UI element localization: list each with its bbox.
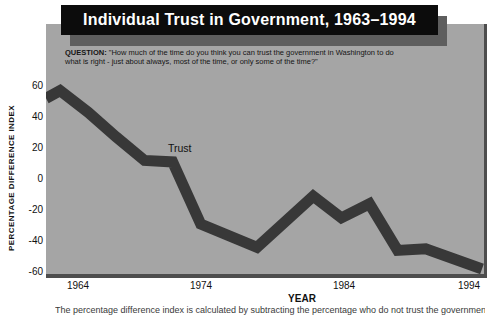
question-body: "How much of the time do you think you c… (65, 48, 394, 66)
chart-title: Individual Trust in Government, 1963–199… (83, 11, 416, 29)
x-tick-label: 1974 (190, 281, 212, 291)
x-tick-label: 1964 (67, 281, 89, 291)
question-text: QUESTION: "How much of the time do you t… (65, 49, 401, 66)
title-bar: Individual Trust in Government, 1963–199… (61, 5, 438, 35)
y-tick-label: 0 (19, 174, 43, 184)
trust-line (46, 91, 482, 269)
y-axis-title: PERCENTAGE DIFFERENCE INDEX (7, 105, 16, 251)
y-tick-label: 60 (19, 81, 43, 91)
y-tick-label: 40 (19, 112, 43, 122)
x-tick-label: 1984 (333, 281, 355, 291)
caption-clipped: The percentage difference index is calcu… (55, 305, 485, 315)
y-tick-label: -60 (19, 267, 43, 277)
y-tick-label: -40 (19, 236, 43, 246)
x-axis-title: YEAR (288, 294, 316, 304)
x-tick-label: 1994 (458, 281, 480, 291)
y-tick-label: 20 (19, 143, 43, 153)
y-tick-label: -20 (19, 205, 43, 215)
series-label-trust: Trust (168, 142, 192, 154)
